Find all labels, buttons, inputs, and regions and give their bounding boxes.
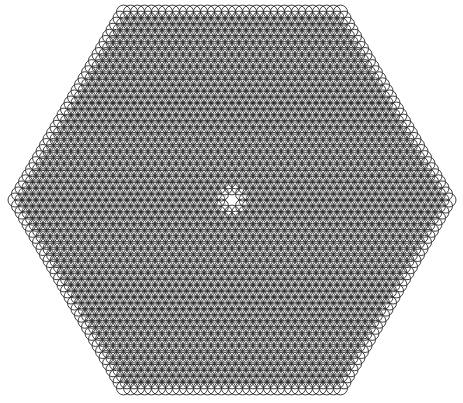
figure-root: Hexagonal lattice of overlapping circles… (0, 0, 463, 403)
hexagonal-circle-lattice-figure: Hexagonal lattice of overlapping circles… (0, 0, 463, 403)
